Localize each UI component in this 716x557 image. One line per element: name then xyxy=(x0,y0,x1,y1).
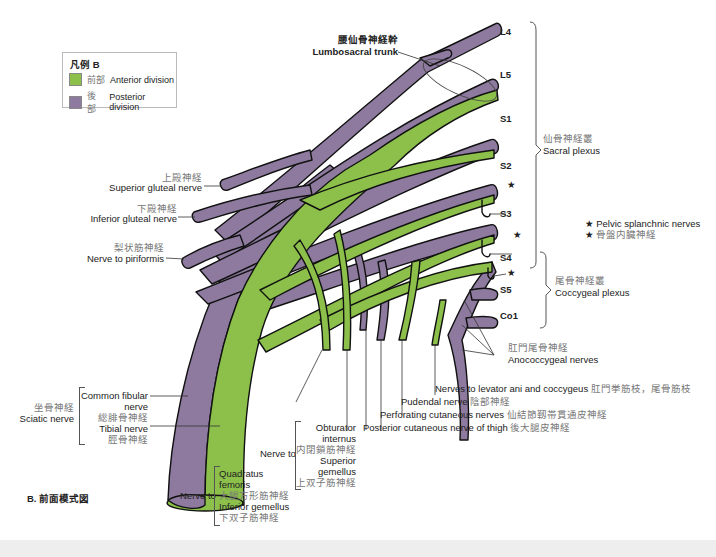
levator-label: Nerves to levator ani and coccygeus 肛門挙筋… xyxy=(435,383,691,395)
pelvic-splanchnic-en: ★ Pelvic splanchnic nerves xyxy=(585,218,700,230)
lumbosacral-trunk-en: Lumbosacral trunk xyxy=(290,46,398,58)
superior-gemellus-en2: gemellus xyxy=(296,466,356,478)
root-s1: S1 xyxy=(500,113,512,125)
tibial-jp: 脛骨神経 xyxy=(80,434,148,446)
sacral-plexus-brace xyxy=(530,22,541,268)
sciatic-en: Sciatic nerve xyxy=(10,413,74,425)
sacral-plexus-en: Sacral plexus xyxy=(543,145,600,157)
anococcygeal-en: Anococcygeal nerves xyxy=(508,354,598,366)
piriformis-jp: 梨状筋神経 xyxy=(40,242,164,254)
pelvic-splanchnic-jp: ★ 骨盤内臓神経 xyxy=(585,229,656,241)
root-s4: S4 xyxy=(500,252,512,264)
superior-gemellus-jp: 上双子筋神経 xyxy=(296,477,356,489)
common-fibular-en2: nerve xyxy=(80,401,148,413)
common-fibular-jp: 総腓骨神経 xyxy=(80,412,148,424)
obturator-jp: 内閉鎖筋神経 xyxy=(296,444,356,456)
piriformis-en: Nerve to piriformis xyxy=(40,253,164,265)
s4-splanchnic-star: ★ xyxy=(507,267,516,279)
sciatic-jp: 坐骨神経 xyxy=(10,402,74,414)
inferior-gemellus-jp: 下双子筋神経 xyxy=(219,512,279,524)
obturator-en1: Obturator xyxy=(296,422,356,434)
nerve-to-1-prefix: Nerve to xyxy=(260,448,296,460)
coccygeal-plexus-brace xyxy=(540,252,551,328)
root-l4: L4 xyxy=(500,26,511,38)
sacral-plexus-jp: 仙骨神経叢 xyxy=(543,133,593,145)
nerve-to-2-prefix: Nerve to xyxy=(180,490,216,502)
inferior-gemellus-en: Inferior gemellus xyxy=(219,501,289,513)
tibial-en: Tibial nerve xyxy=(80,423,148,435)
s3-splanchnic-star: ★ xyxy=(513,229,522,241)
pudendal-label: Pudendal nerve 陰部神経 xyxy=(401,396,510,408)
quadratus-jp: 大腿方形筋神経 xyxy=(219,490,289,502)
obturator-en2: internus xyxy=(296,433,356,445)
root-l5: L5 xyxy=(500,69,511,81)
levator-branch xyxy=(432,300,446,345)
perforating-label: Perforating cutaneous nerves 仙結節靱帯貫通皮神経 xyxy=(380,409,607,421)
co1-branch xyxy=(466,317,498,329)
superior-gluteal-en: Superior gluteal nerve xyxy=(60,182,202,194)
s5-branch xyxy=(470,289,498,301)
coccygeal-plexus-en: Coccygeal plexus xyxy=(555,287,629,299)
figure-caption: B. 前面模式図 xyxy=(27,493,89,505)
post-cutaneous-label: Posterior cutaneous nerve of thigh 後大腿皮神… xyxy=(363,422,570,434)
lumbosacral-trunk-jp: 腰仙骨神経幹 xyxy=(320,34,398,46)
root-s5: S5 xyxy=(500,284,512,296)
bottom-band xyxy=(0,540,716,557)
root-co1: Co1 xyxy=(500,310,518,322)
coccygeal-plexus-jp: 尾骨神経叢 xyxy=(555,275,605,287)
superior-gemellus-en1: Superior xyxy=(296,455,356,467)
root-s2: S2 xyxy=(500,160,512,172)
common-fibular-en1: Common fibular xyxy=(80,390,148,402)
s2-splanchnic-star: ★ xyxy=(507,179,516,191)
inferior-gluteal-en: Inferior gluteal nerve xyxy=(40,213,177,225)
quadratus-en2: femoris xyxy=(219,479,250,491)
root-s3: S3 xyxy=(500,208,512,220)
sacral-plexus-diagram xyxy=(0,0,716,557)
quadratus-en1: Quadratus xyxy=(219,468,263,480)
anococcygeal-jp: 肛門尾骨神経 xyxy=(508,342,568,354)
